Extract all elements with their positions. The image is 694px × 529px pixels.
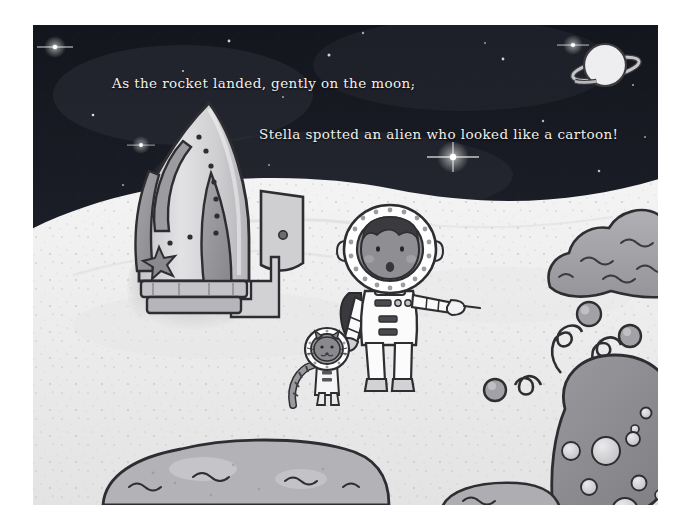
cat-chest-panel bbox=[322, 371, 332, 375]
eye-left bbox=[376, 246, 380, 252]
scene-artwork bbox=[33, 25, 658, 505]
mouth-surprised bbox=[386, 262, 394, 272]
eye-right bbox=[400, 246, 404, 252]
illustration-plate: As the rocket landed, gently on the moon… bbox=[33, 25, 658, 505]
cat-leg-right bbox=[331, 393, 339, 405]
astronaut-face bbox=[361, 217, 419, 279]
cat-leg-left bbox=[317, 393, 325, 405]
story-text-line-2: Stella spotted an alien who looked like … bbox=[259, 126, 618, 142]
storybook-page: As the rocket landed, gently on the moon… bbox=[0, 0, 694, 529]
rocket-engine-skirt bbox=[141, 281, 247, 313]
story-text-line-1: As the rocket landed, gently on the moon… bbox=[112, 75, 415, 91]
rocket-fin-right bbox=[261, 191, 303, 271]
